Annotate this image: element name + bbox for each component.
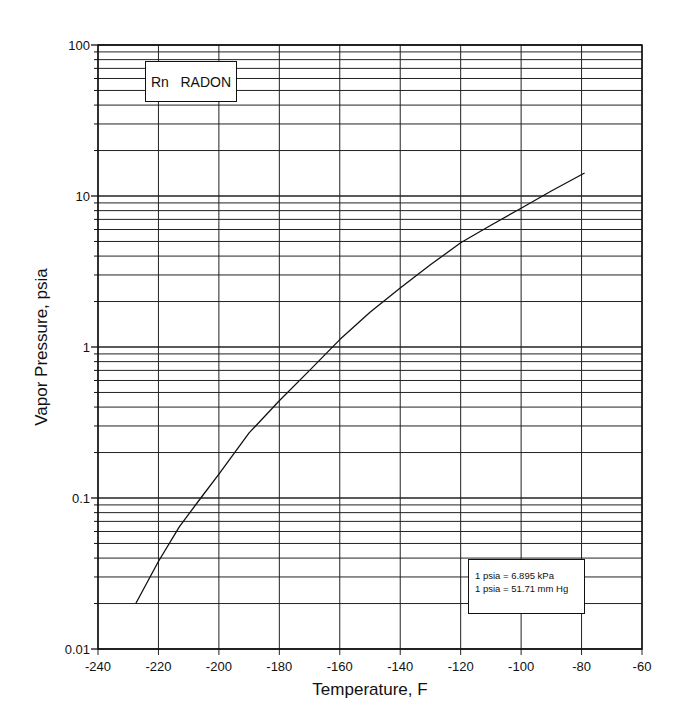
- x-tick-label: -80: [572, 659, 591, 674]
- y-axis-label: Vapor Pressure, psia: [32, 268, 51, 426]
- plot-area: 0.010.1110100-240-220-200-180-160-140-12…: [0, 0, 677, 725]
- y-tick-label: 1: [83, 340, 90, 355]
- element-symbol: Rn: [151, 74, 169, 90]
- x-tick-label: -160: [327, 659, 353, 674]
- y-tick-label: 100: [68, 38, 90, 53]
- y-tick-label: 10: [76, 189, 90, 204]
- x-tick-label: -240: [85, 659, 111, 674]
- element-name: RADON: [181, 74, 232, 90]
- chart-title-box: Rn RADON: [145, 61, 237, 102]
- x-tick-label: -200: [206, 659, 232, 674]
- unit-conversion-note: 1 psia = 6.895 kPa 1 psia = 51.71 mm Hg: [468, 559, 585, 614]
- x-tick-label: -140: [387, 659, 413, 674]
- x-tick-label: -60: [633, 659, 652, 674]
- x-tick-label: -180: [266, 659, 292, 674]
- vapor-pressure-curve: [136, 173, 585, 604]
- y-tick-label: 0.01: [65, 642, 90, 657]
- x-tick-label: -100: [508, 659, 534, 674]
- x-tick-label: -120: [448, 659, 474, 674]
- conversion-kpa: 1 psia = 6.895 kPa: [475, 569, 584, 582]
- y-tick-label: 0.1: [72, 491, 90, 506]
- vapor-pressure-chart: 0.010.1110100-240-220-200-180-160-140-12…: [0, 0, 677, 725]
- x-axis-label: Temperature, F: [312, 680, 427, 699]
- x-tick-label: -220: [145, 659, 171, 674]
- conversion-mmhg: 1 psia = 51.71 mm Hg: [475, 582, 584, 595]
